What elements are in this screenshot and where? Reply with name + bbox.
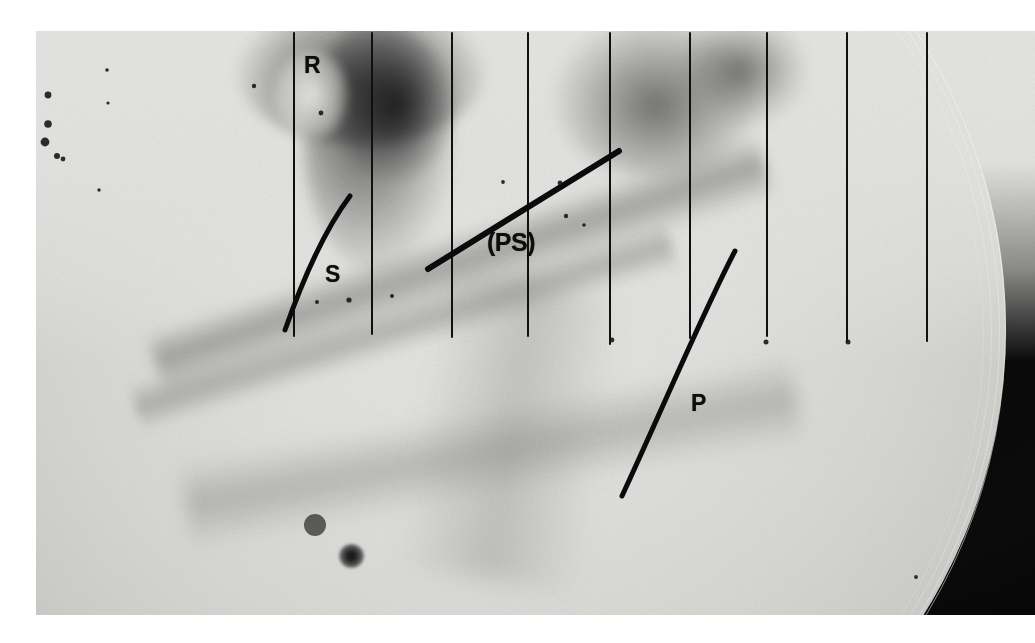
- photographic-plate: [36, 31, 1035, 615]
- screenshot-root: R S (PS) P: [0, 0, 1035, 643]
- film-grain: [36, 31, 1035, 615]
